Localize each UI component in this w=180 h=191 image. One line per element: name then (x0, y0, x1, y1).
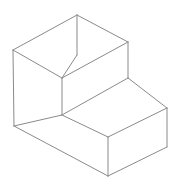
isometric-step-block-drawing (0, 0, 180, 191)
isometric-figure-canvas (0, 0, 180, 191)
